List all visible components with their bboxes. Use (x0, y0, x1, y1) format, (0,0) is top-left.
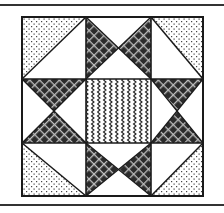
corner-bottom-left (22, 143, 86, 196)
edge-top (86, 17, 151, 79)
corner-bottom-right (151, 143, 203, 196)
quilt-block (0, 0, 224, 213)
center-square (86, 79, 151, 143)
corner-top-left (22, 17, 86, 79)
edge-right (151, 79, 203, 143)
edge-bottom (86, 143, 151, 196)
corner-top-right (151, 17, 203, 79)
edge-left (22, 79, 86, 143)
